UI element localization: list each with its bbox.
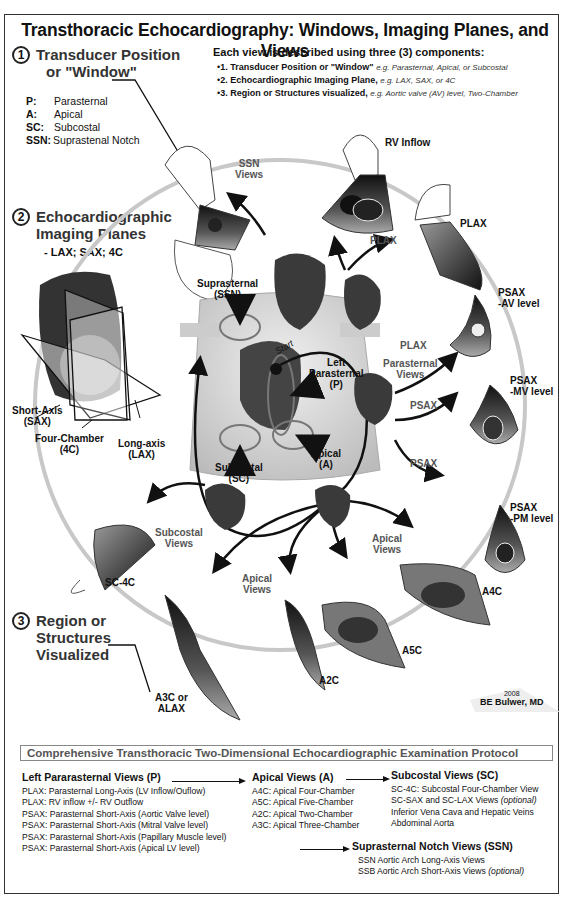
protocol-item: SC-4C: Subcostal Four-Chamber View [391, 784, 538, 796]
apical-views-label-bottom: ApicalViews [242, 573, 272, 595]
ssn-views-label: SSNViews [235, 158, 263, 180]
rv-inflow-label: RV Inflow [385, 137, 430, 148]
parasternal-views-label: ParasternalViews [383, 358, 437, 380]
protocol-item: Inferior Vena Cava and Hepatic Veins [391, 807, 538, 819]
a5c-view-figure [322, 602, 405, 668]
protocol-item: A2C: Apical Two-Chamber [252, 809, 359, 821]
protocol-item: PSAX: Parasternal Short-Axis (Apical LV … [22, 843, 226, 855]
protocol-item: SC-SAX and SC-LAX Views (optional) [391, 795, 538, 807]
author-signature: 2008 BE Bulwer, MD [480, 690, 544, 707]
signature-author: BE Bulwer, MD [480, 697, 544, 707]
ssn-window-label: Suprasternal(SSN) [197, 278, 258, 300]
a4c-label: A4C [482, 586, 502, 597]
window-leader-line [112, 80, 180, 155]
apical-protocol-column: Apical Views (A) A4C: Apical Four-Chambe… [252, 772, 359, 832]
protocol-item: Abdominal Aorta [391, 818, 538, 830]
protocol-item: SSB Aortic Arch Short-Axis Views (option… [352, 866, 524, 878]
flow-arrow [300, 849, 344, 850]
a2c-label: A2C [319, 675, 339, 686]
a5c-label: A5C [402, 645, 422, 656]
protocol-title: Comprehensive Transthoracic Two-Dimensio… [20, 745, 553, 761]
psax-mv-label: PSAX-MV level [510, 375, 553, 397]
signature-year: 2008 [480, 690, 544, 697]
protocol-item: PLAX: RV inflow +/- RV Outflow [22, 797, 226, 809]
apical-window-label: Apical(A) [311, 448, 341, 470]
plax-heart-label: PLAX [400, 340, 427, 351]
protocol-item: PSAX: Parasternal Short-Axis (Papillary … [22, 832, 226, 844]
psax-arrow-label-2: PSAX [410, 458, 437, 469]
protocol-item: PSAX: Parasternal Short-Axis (Mitral Val… [22, 820, 226, 832]
flow-arrow [172, 781, 240, 782]
parasternal-protocol-column: Left Pararasternal Views (P) PLAX: Paras… [22, 772, 226, 855]
parasternal-window-label: LeftParasternal(P) [309, 357, 363, 390]
psax-av-view-figure [450, 295, 491, 356]
sc4c-label: SC-4C [105, 577, 135, 588]
ssn-protocol-column: Suprasternal Notch Views (SSN) SSN Aorti… [352, 841, 524, 878]
rv-inflow-view-figure [322, 135, 393, 233]
psax-av-label: PSAX-AV level [498, 287, 540, 309]
a3c-label: A3C orALAX [155, 692, 188, 714]
subcostal-views-label: SubcostalViews [155, 527, 203, 549]
lax-plane-label: Long-axis(LAX) [118, 438, 165, 460]
subcostal-heart-icon [205, 484, 245, 530]
protocol-item: A5C: Apical Five-Chamber [252, 797, 359, 809]
ssn-protocol-heading: Suprasternal Notch Views (SSN) [352, 841, 524, 853]
4c-plane-label: Four-Chamber(4C) [35, 433, 104, 455]
subcostal-protocol-column: Subcostal Views (SC) SC-4C: Subcostal Fo… [391, 770, 538, 830]
flow-arrow [346, 779, 384, 780]
echo-illustration [0, 0, 570, 740]
protocol-item: A4C: Apical Four-Chamber [252, 786, 359, 798]
a4c-view-figure [400, 564, 490, 625]
protocol-item: A3C: Apical Three-Chamber [252, 820, 359, 832]
subcostal-protocol-heading: Subcostal Views (SC) [391, 770, 538, 782]
plax-view-figure [415, 184, 482, 290]
plax-arrow-label: PLAX [370, 235, 397, 246]
protocol-item: PLAX: Parasternal Long-Axis (LV Inflow/O… [22, 786, 226, 798]
plax-view-label: PLAX [460, 218, 487, 229]
subcostal-window-label: Subcostal(SC) [215, 462, 263, 484]
psax-pm-label: PSAX-PM level [510, 502, 553, 524]
apical-views-label-top: ApicalViews [372, 533, 402, 555]
apical-protocol-heading: Apical Views (A) [252, 772, 359, 784]
region-leader-line [108, 645, 150, 692]
protocol-item: PSAX: Parasternal Short-Axis (Aortic Val… [22, 809, 226, 821]
protocol-item: SSN Aortic Arch Long-Axis Views [352, 855, 524, 867]
apical-heart-icon [315, 485, 350, 528]
sax-plane-label: Short-Axis(SAX) [12, 405, 63, 427]
psax-arrow-label-1: PSAX [410, 400, 437, 411]
